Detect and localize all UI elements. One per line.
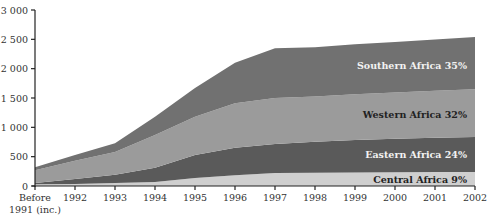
x-tick-label: 1992 — [63, 192, 87, 203]
x-tick-label: 1998 — [303, 192, 327, 203]
x-tick-label: 2001 — [423, 192, 447, 203]
x-tick-label: 2002 — [463, 192, 487, 203]
y-tick-label: 1 000 — [1, 122, 28, 133]
series-label-eastern-africa: Eastern Africa 24% — [365, 149, 467, 160]
x-tick-label: 1995 — [183, 192, 207, 203]
series-label-western-africa: Western Africa 32% — [362, 109, 467, 120]
x-tick-label: 1999 — [343, 192, 367, 203]
y-tick-label: 1 500 — [1, 93, 28, 104]
x-tick-label: 1994 — [143, 192, 167, 203]
y-tick-label: 2 000 — [1, 63, 28, 74]
y-tick-label: 2 500 — [1, 34, 28, 45]
y-tick-label: 500 — [10, 151, 28, 162]
x-tick-label: 1997 — [263, 192, 287, 203]
x-tick-label: 1996 — [223, 192, 247, 203]
series-label-southern-africa: Southern Africa 35% — [357, 60, 467, 71]
x-tick-label: 2000 — [383, 192, 407, 203]
series-label-central-africa: Central Africa 9% — [373, 174, 467, 185]
stacked-area-chart: 05001 0001 5002 0002 5003 000Before1991 … — [0, 0, 489, 224]
x-tick-label: Before — [19, 192, 51, 203]
x-tick-label: 1993 — [103, 192, 127, 203]
x-tick-label: 1991 (inc.) — [9, 204, 61, 215]
y-tick-label: 0 — [22, 181, 28, 192]
y-tick-label: 3 000 — [1, 5, 28, 16]
